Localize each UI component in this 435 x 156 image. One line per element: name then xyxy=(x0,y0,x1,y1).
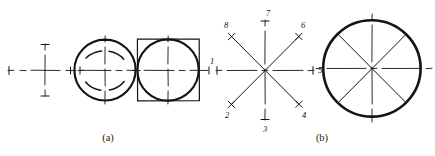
ray-label-6: 6 xyxy=(301,20,306,30)
ray-label-3: 3 xyxy=(262,124,267,134)
figure-a-caption: (a) xyxy=(102,132,114,144)
ray-tick-8 xyxy=(228,33,234,39)
ray-label-7: 7 xyxy=(266,8,271,18)
figure-a-group: (a) xyxy=(8,36,209,144)
construction-arc-lower-left xyxy=(86,82,101,90)
step-b2-completed-circle xyxy=(316,14,432,122)
construction-arc-upper-left xyxy=(86,51,102,58)
construction-arc-lower-right xyxy=(109,82,124,90)
ray-tick-4 xyxy=(296,101,302,107)
technical-drawing-canvas: (a) 1 2 3 4 5 xyxy=(0,0,435,156)
ray-label-1: 1 xyxy=(210,56,214,66)
figure-b-caption: (b) xyxy=(316,132,329,144)
ray-label-2: 2 xyxy=(225,110,230,120)
figure-b-group: 1 2 3 4 5 6 7 8 (b) xyxy=(210,8,432,144)
ray-label-4: 4 xyxy=(302,110,307,120)
step-a3-circle-in-square xyxy=(133,36,209,104)
step-a1-centre-cross xyxy=(8,44,83,96)
construction-arc-upper-right xyxy=(109,51,124,59)
ray-tick-2 xyxy=(228,101,234,107)
ray-tick-6 xyxy=(296,33,302,39)
step-b1-eight-ray-star: 1 2 3 4 5 6 7 8 xyxy=(210,8,322,134)
drawing-svg: (a) 1 2 3 4 5 xyxy=(0,0,435,156)
ray-label-5: 5 xyxy=(318,65,322,75)
ray-label-8: 8 xyxy=(224,20,229,30)
